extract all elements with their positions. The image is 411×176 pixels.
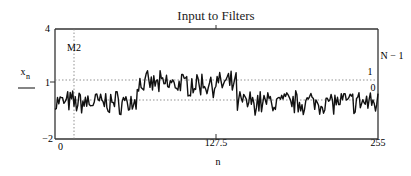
marker-label-1: 1 <box>368 66 373 77</box>
marker-label-n-minus-1: N − 1 <box>381 50 404 61</box>
signal-line <box>55 71 378 116</box>
marker-label-m2: M2 <box>67 42 81 53</box>
chart: Input to Filters x n 4 1 −2 0 127.5 255 … <box>0 0 411 176</box>
y-tick-top: 4 <box>45 23 50 34</box>
y-tick-bottom: −2 <box>42 133 53 144</box>
chart-title: Input to Filters <box>177 8 254 23</box>
svg-text:n: n <box>26 72 30 81</box>
y-tick-mid: 1 <box>45 77 50 88</box>
y-axis-label: x n <box>18 66 35 88</box>
svg-text:x: x <box>21 66 26 77</box>
x-tick-0: 0 <box>58 141 63 152</box>
x-axis-label: n <box>216 156 221 167</box>
marker-label-0: 0 <box>371 82 376 93</box>
